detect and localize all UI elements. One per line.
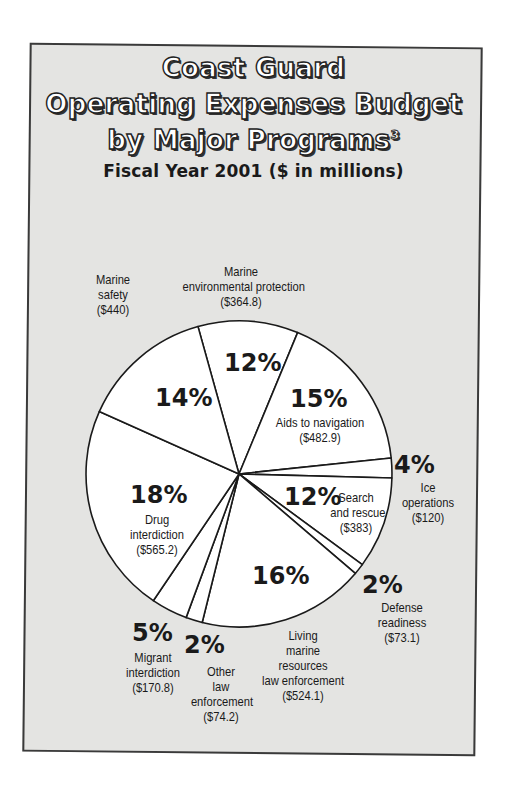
label-line: resources bbox=[261, 658, 345, 673]
label-ice-operations: Ice operations ($120) bbox=[400, 480, 455, 525]
label-aids-to-navigation: Aids to navigation ($482.9) bbox=[273, 415, 368, 445]
label-living-marine-resources: Living marine resources law enforcement … bbox=[261, 628, 345, 703]
label-value: ($120) bbox=[400, 510, 455, 525]
label-line: environmental protection bbox=[183, 279, 300, 294]
label-value: ($565.2) bbox=[118, 542, 195, 557]
label-line: enforcement bbox=[191, 694, 251, 709]
label-line: interdiction bbox=[118, 527, 195, 542]
label-line: Defense bbox=[374, 600, 429, 615]
label-line: law bbox=[191, 679, 251, 694]
label-value: ($383) bbox=[330, 520, 382, 535]
label-line: operations bbox=[400, 495, 455, 510]
label-line: marine bbox=[261, 643, 345, 658]
label-value: ($364.8) bbox=[183, 294, 300, 309]
label-marine-safety: Marine safety ($440) bbox=[92, 272, 135, 317]
title-line-1: Coast Guard bbox=[0, 50, 507, 86]
chart-title-block: Coast Guard Operating Expenses Budget by… bbox=[0, 50, 507, 182]
label-value: ($73.1) bbox=[374, 630, 429, 645]
label-line: Migrant bbox=[125, 650, 182, 665]
label-line: Ice bbox=[400, 480, 455, 495]
label-drug-interdiction: Drug interdiction ($565.2) bbox=[118, 512, 195, 557]
label-line: Search bbox=[330, 490, 382, 505]
pct-ice-operations: 4% bbox=[394, 452, 435, 478]
label-value: ($74.2) bbox=[191, 709, 251, 724]
label-line: Living bbox=[261, 628, 345, 643]
label-migrant-interdiction: Migrant interdiction ($170.8) bbox=[125, 650, 182, 695]
title-line-2: Operating Expenses Budget bbox=[0, 86, 507, 122]
label-line: Marine bbox=[183, 264, 300, 279]
label-value: ($482.9) bbox=[273, 430, 368, 445]
title-line-3-text: by Major Programs bbox=[107, 125, 390, 155]
label-other-law-enforcement: Other law enforcement ($74.2) bbox=[191, 664, 251, 724]
pct-marine-safety: 14% bbox=[155, 385, 212, 411]
pct-defense-readiness: 2% bbox=[362, 572, 403, 598]
label-line: Marine bbox=[92, 272, 135, 287]
pct-drug-interdiction: 18% bbox=[130, 482, 187, 508]
label-value: ($440) bbox=[92, 302, 135, 317]
label-line: law enforcement bbox=[261, 673, 345, 688]
label-line: interdiction bbox=[125, 665, 182, 680]
label-value: ($524.1) bbox=[261, 688, 345, 703]
label-line: readiness bbox=[374, 615, 429, 630]
pct-other-law-enforcement: 2% bbox=[184, 632, 225, 658]
label-line: Other bbox=[191, 664, 251, 679]
pct-marine-environmental-protection: 12% bbox=[224, 350, 281, 376]
label-search-and-rescue: Search and rescue ($383) bbox=[330, 490, 382, 535]
label-line: Drug bbox=[118, 512, 195, 527]
pct-living-marine-resources: 16% bbox=[252, 563, 309, 589]
label-defense-readiness: Defense readiness ($73.1) bbox=[374, 600, 429, 645]
label-marine-environmental-protection: Marine environmental protection ($364.8) bbox=[183, 264, 300, 309]
title-line-3: by Major Programs3 bbox=[0, 122, 507, 158]
label-line: Aids to navigation bbox=[273, 415, 368, 430]
label-line: and rescue bbox=[330, 505, 382, 520]
pct-aids-to-navigation: 15% bbox=[290, 386, 347, 412]
label-value: ($170.8) bbox=[125, 680, 182, 695]
label-line: safety bbox=[92, 287, 135, 302]
pct-migrant-interdiction: 5% bbox=[132, 620, 173, 646]
chart-subtitle: Fiscal Year 2001 ($ in millions) bbox=[0, 160, 507, 182]
footnote-marker: 3 bbox=[390, 127, 399, 142]
